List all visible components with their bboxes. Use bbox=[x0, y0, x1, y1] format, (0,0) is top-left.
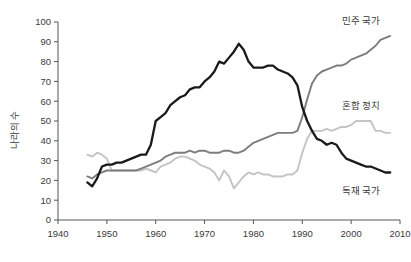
y-tick-label: 10 bbox=[40, 195, 51, 206]
y-axis-title-text: 나라의 수 bbox=[9, 111, 20, 150]
y-tick-label: 100 bbox=[35, 16, 51, 27]
y-tick-label: 40 bbox=[40, 135, 51, 146]
y-tick-label: 90 bbox=[40, 36, 51, 47]
x-tick-label: 2000 bbox=[341, 228, 362, 239]
x-tick-label: 1990 bbox=[292, 228, 313, 239]
y-tick-label: 30 bbox=[40, 155, 51, 166]
y-tick-label: 60 bbox=[40, 96, 51, 107]
x-tick-label: 1970 bbox=[194, 228, 215, 239]
series-annotation: 민주 국가 bbox=[342, 15, 381, 26]
plot-background bbox=[0, 0, 411, 262]
y-tick-label: 70 bbox=[40, 76, 51, 87]
series-annotation: 혼합 정치 bbox=[342, 100, 381, 111]
y-tick-label: 0 bbox=[46, 214, 51, 225]
x-tick-label: 1940 bbox=[47, 228, 68, 239]
chart-figure: 0102030405060708090100 19401950196019701… bbox=[0, 0, 411, 262]
x-tick-label: 1980 bbox=[243, 228, 264, 239]
x-tick-label: 2010 bbox=[389, 228, 410, 239]
y-tick-label: 50 bbox=[40, 115, 51, 126]
y-axis-title: 나라의 수 bbox=[9, 111, 20, 150]
y-tick-label: 80 bbox=[40, 56, 51, 67]
x-tick-label: 1950 bbox=[96, 228, 117, 239]
y-tick-label: 20 bbox=[40, 175, 51, 186]
x-tick-label: 1960 bbox=[145, 228, 166, 239]
series-annotation: 독재 국가 bbox=[342, 185, 381, 196]
